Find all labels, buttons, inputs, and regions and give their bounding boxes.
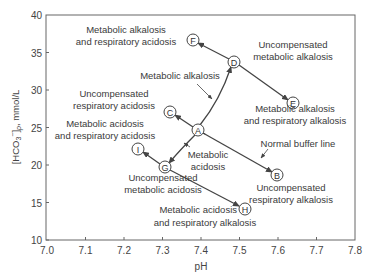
label-f-2: and respiratory acidosis: [76, 36, 177, 47]
x-tick: 7.6: [271, 245, 285, 256]
label-ag-2: acidosis: [191, 161, 226, 172]
svg-text:F: F: [190, 36, 196, 46]
label-ad: Metabolic alkalosis: [140, 70, 220, 81]
label-g-1: Uncompensated: [128, 172, 197, 183]
label-b-1: Uncompensated: [256, 182, 325, 193]
x-tick: 7.3: [156, 245, 170, 256]
x-tick: 7.1: [79, 245, 93, 256]
label-i-2: and respiratory acidosis: [55, 130, 156, 141]
x-tick: 7.2: [117, 245, 131, 256]
label-f-1: Metabolic alkalosis: [86, 24, 166, 35]
y-tick: 20: [31, 160, 43, 171]
pointer-normal-buffer: [261, 149, 268, 158]
line-d-to-f: [198, 43, 229, 59]
point-f: F: [187, 34, 199, 46]
y-tick: 25: [31, 123, 43, 134]
point-a: A: [192, 124, 204, 136]
y-tick: 35: [31, 48, 43, 59]
point-b: B: [271, 169, 283, 181]
label-e-2: and respiratory alkalosis: [244, 115, 347, 126]
svg-text:D: D: [231, 58, 238, 68]
point-c: C: [164, 106, 176, 118]
buffer-line-to-c: [175, 115, 193, 127]
x-axis-label: pH: [195, 261, 208, 272]
label-d-1: Uncompensated: [258, 39, 327, 50]
x-tick: 7.0: [40, 245, 54, 256]
svg-text:G: G: [161, 163, 168, 173]
pointer-metabolic-alkalosis: [197, 84, 212, 99]
label-e-1: Metabolic alkalosis: [255, 103, 335, 114]
label-g-2: metabolic acidosis: [124, 184, 202, 195]
x-tick: 7.8: [348, 245, 362, 256]
svg-text:A: A: [195, 126, 201, 136]
svg-text:C: C: [167, 108, 174, 118]
line-g-to-i: [143, 152, 160, 164]
x-tick: 7.7: [310, 245, 324, 256]
label-h-2: and respiratory alkalosis: [154, 217, 257, 228]
label-i-1: Metabolic acidosis: [66, 118, 144, 129]
label-c-2: respiratory acidosis: [73, 100, 155, 111]
y-tick: 15: [31, 198, 43, 209]
label-b-2: respiratory alkalosis: [249, 194, 333, 205]
label-buffer: Normal buffer line: [261, 138, 336, 149]
y-tick: 30: [31, 85, 43, 96]
label-ag-1: Metabolic: [188, 149, 229, 160]
line-d-to-e: [239, 65, 288, 100]
svg-text:I: I: [137, 145, 140, 155]
y-axis-label: [HCO3−]p, mmol/L: [9, 90, 23, 165]
x-tick: 7.4: [194, 245, 208, 256]
x-tick: 7.5: [233, 245, 247, 256]
point-i: I: [132, 143, 144, 155]
label-c-1: Uncompensated: [79, 88, 148, 99]
point-d: D: [228, 56, 240, 68]
label-h-1: Metabolic acidosis: [159, 204, 237, 215]
label-d-2: metabolic alkalosis: [253, 51, 333, 62]
y-tick: 40: [31, 10, 43, 21]
svg-text:B: B: [274, 171, 280, 181]
svg-text:H: H: [242, 205, 249, 215]
acid-base-chart: 10 15 20 25 30 35 40 7.0 7.1 7.2 7.3 7.4…: [0, 0, 373, 278]
